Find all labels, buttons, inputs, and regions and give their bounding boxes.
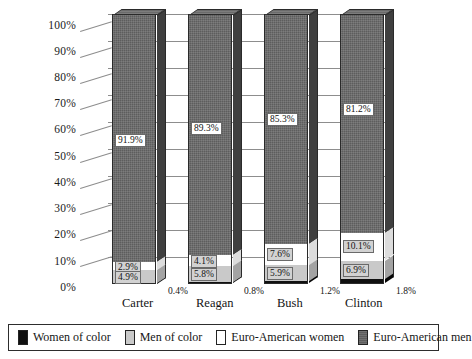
value-label-women-of-color: 1.8% xyxy=(396,286,416,296)
x-tick-label-clinton: Clinton xyxy=(345,296,383,311)
y-tick-label: 0% xyxy=(22,281,76,293)
bar-side-face xyxy=(233,9,242,255)
segment-euro-american-women[interactable]: 7.6% xyxy=(264,244,308,265)
y-tick-label: 20% xyxy=(22,228,76,240)
value-label-men-of-color: 5.9% xyxy=(267,267,293,280)
legend-item-euro-american-men[interactable]: Euro-American men xyxy=(358,330,471,345)
value-label-euro-american-men: 81.2% xyxy=(343,103,374,116)
value-label-men-of-color: 6.9% xyxy=(343,264,369,277)
y-tick-label: 50% xyxy=(22,150,76,162)
y-tick-label: 90% xyxy=(22,45,76,57)
segment-euro-american-men[interactable]: 89.3% xyxy=(188,14,232,255)
bar-clinton[interactable]: 81.2% 10.1% 6.9% 1.8% xyxy=(340,14,384,284)
x-tick-label-reagan: Reagan xyxy=(196,296,233,311)
bar-side-face xyxy=(157,9,166,262)
legend-label: Men of color xyxy=(140,330,203,345)
x-tick-label-bush: Bush xyxy=(277,296,303,311)
y-tick-label: 40% xyxy=(22,176,76,188)
legend-label: Euro-American men xyxy=(373,330,471,345)
segment-euro-american-men[interactable]: 81.2% xyxy=(340,14,384,233)
bar-side-face xyxy=(309,9,318,244)
value-label-euro-american-women: 7.6% xyxy=(267,248,293,261)
value-label-euro-american-women: 4.1% xyxy=(191,255,217,268)
y-tick-label: 100% xyxy=(22,19,76,31)
segment-euro-american-men[interactable]: 91.9% xyxy=(112,14,156,262)
y-tick-label: 80% xyxy=(22,71,76,83)
segment-men-of-color[interactable]: 5.8% xyxy=(188,266,232,282)
legend-label: Euro-American women xyxy=(231,330,344,345)
legend-swatch-icon xyxy=(358,330,368,345)
chart-legend: Women of color Men of color Euro-America… xyxy=(8,324,439,351)
legend-swatch-icon xyxy=(216,330,226,345)
segment-women-of-color[interactable] xyxy=(340,279,384,284)
segment-men-of-color[interactable]: 4.9% xyxy=(112,270,156,283)
segment-women-of-color[interactable] xyxy=(264,281,308,284)
bar-bush[interactable]: 85.3% 7.6% 5.9% 1.2% xyxy=(264,14,308,284)
bar-reagan[interactable]: 89.3% 4.1% 5.8% 0.8% xyxy=(188,14,232,284)
bar-side-face xyxy=(385,9,394,233)
value-label-euro-american-men: 85.3% xyxy=(267,113,298,126)
value-label-men-of-color: 5.8% xyxy=(191,268,217,281)
value-label-euro-american-women: 10.1% xyxy=(343,240,374,253)
segment-euro-american-men[interactable]: 85.3% xyxy=(264,14,308,244)
segment-men-of-color[interactable]: 6.9% xyxy=(340,261,384,280)
legend-swatch-icon xyxy=(125,330,135,345)
value-label-women-of-color: 0.8% xyxy=(244,286,264,296)
legend-item-euro-american-women[interactable]: Euro-American women xyxy=(216,330,344,345)
value-label-women-of-color: 0.4% xyxy=(168,286,188,296)
x-tick-label-carter: Carter xyxy=(122,296,153,311)
value-label-men-of-color: 4.9% xyxy=(115,271,141,284)
legend-label: Women of color xyxy=(33,330,111,345)
segment-women-of-color[interactable] xyxy=(188,282,232,284)
segment-euro-american-women[interactable]: 2.9% xyxy=(112,262,156,270)
legend-item-women-of-color[interactable]: Women of color xyxy=(18,330,111,345)
segment-men-of-color[interactable]: 5.9% xyxy=(264,265,308,281)
segment-euro-american-women[interactable]: 10.1% xyxy=(340,233,384,260)
value-label-euro-american-men: 89.3% xyxy=(191,122,222,135)
value-label-euro-american-men: 91.9% xyxy=(115,134,146,147)
plot-area: 91.9% 2.9% 4.9% 0.4% 89.3% xyxy=(108,14,390,284)
y-tick-label: 10% xyxy=(22,255,76,267)
legend-swatch-icon xyxy=(18,330,28,345)
legend-item-men-of-color[interactable]: Men of color xyxy=(125,330,203,345)
y-tick-label: 70% xyxy=(22,97,76,109)
y-tick-label: 30% xyxy=(22,202,76,214)
value-label-women-of-color: 1.2% xyxy=(320,286,340,296)
segment-euro-american-women[interactable]: 4.1% xyxy=(188,255,232,266)
bar-carter[interactable]: 91.9% 2.9% 4.9% 0.4% xyxy=(112,14,156,284)
y-tick-label: 60% xyxy=(22,123,76,135)
